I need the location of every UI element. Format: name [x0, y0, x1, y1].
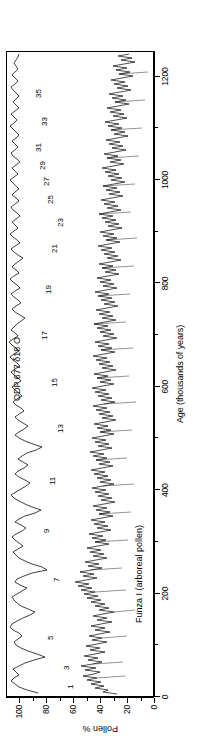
- stage-number-13: 13: [56, 424, 65, 433]
- stage-number-19: 19: [44, 285, 53, 294]
- stage-number-33: 33: [40, 117, 49, 126]
- stage-number-21: 21: [50, 244, 59, 253]
- stage-number-3: 3: [62, 666, 71, 670]
- age-tick-label-600: 600: [160, 367, 170, 407]
- figure-root: 0 200 400 600 800 1000 1200 Age (thousan…: [0, 0, 199, 743]
- stage-number-7: 7: [52, 578, 61, 582]
- stage-number-9: 9: [42, 529, 51, 533]
- stage-number-23: 23: [56, 218, 65, 227]
- stage-number-25: 25: [46, 195, 55, 204]
- d18o-scale-group: -2 ⁰/₀₀ -1: [0, 553, 150, 743]
- figure-canvas: 0 200 400 600 800 1000 1200 Age (thousan…: [0, 0, 199, 743]
- stage-number-27: 27: [42, 177, 51, 186]
- series-label-d18o: ODP 677 δ18 O: [12, 337, 22, 401]
- stage-number-5: 5: [46, 636, 55, 640]
- age-tick-label-1200: 1200: [160, 57, 170, 97]
- age-tick-label-0: 0: [160, 677, 170, 717]
- stage-number-17: 17: [40, 331, 49, 340]
- age-axis-title: Age (thousands of years): [175, 51, 185, 697]
- age-tick-label-400: 400: [160, 470, 170, 510]
- age-tick-label-1000: 1000: [160, 160, 170, 200]
- stage-number-35: 35: [34, 89, 43, 98]
- stage-number-11: 11: [48, 477, 57, 485]
- stage-number-1: 1: [66, 685, 75, 689]
- stage-number-29: 29: [38, 161, 47, 170]
- stage-number-31: 31: [34, 143, 43, 152]
- stage-number-15: 15: [50, 378, 59, 387]
- series-label-pollen: Funza I (arboreal pollen): [134, 525, 144, 623]
- pollen-tick-label-0: 0: [149, 705, 159, 731]
- age-tick-label-200: 200: [160, 574, 170, 614]
- age-tick-label-800: 800: [160, 263, 170, 303]
- age-axis-line: [154, 51, 155, 697]
